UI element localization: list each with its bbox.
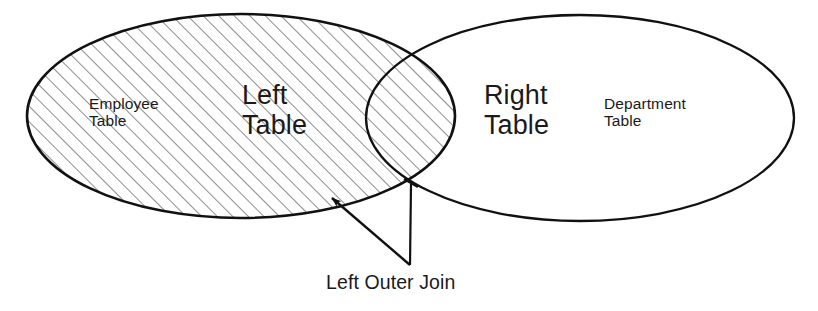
label-employee-table: Employee Table bbox=[89, 95, 159, 130]
leader-line-to-intersection bbox=[410, 184, 411, 265]
venn-diagram-svg bbox=[0, 0, 818, 311]
label-left-table: Left Table bbox=[242, 80, 307, 140]
leader-arrow-to-left-region bbox=[332, 198, 410, 265]
label-right-table: Right Table bbox=[484, 80, 549, 140]
label-department-table: Department Table bbox=[604, 95, 686, 130]
label-left-outer-join: Left Outer Join bbox=[326, 272, 455, 294]
venn-diagram-canvas: Employee Table Left Table Right Table De… bbox=[0, 0, 818, 311]
